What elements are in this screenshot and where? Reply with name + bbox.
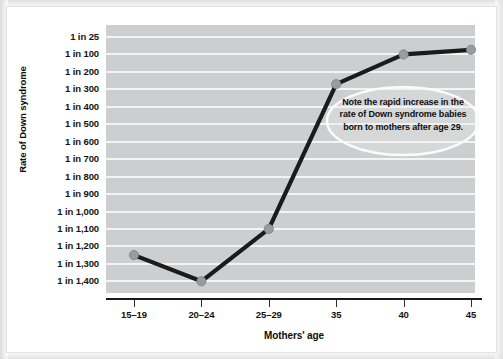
scan-edge-bottom <box>0 352 503 359</box>
screenshot-page: 1 in 251 in 1001 in 2001 in 3001 in 4001… <box>0 0 503 359</box>
data-point-marker <box>264 224 273 233</box>
data-point-marker <box>399 50 408 59</box>
series-markers <box>129 45 475 286</box>
data-point-marker <box>197 277 206 286</box>
callout-text: Note the rapid increase in the rate of D… <box>334 96 472 133</box>
line-chart-figure: 1 in 251 in 1001 in 2001 in 3001 in 4001… <box>6 6 497 353</box>
data-point-marker <box>466 45 475 54</box>
callout-annotation: Note the rapid increase in the rate of D… <box>324 85 482 157</box>
series-overlay <box>6 6 497 353</box>
figure-paper: 1 in 251 in 1001 in 2001 in 3001 in 4001… <box>6 6 497 353</box>
data-point-marker <box>129 251 138 260</box>
